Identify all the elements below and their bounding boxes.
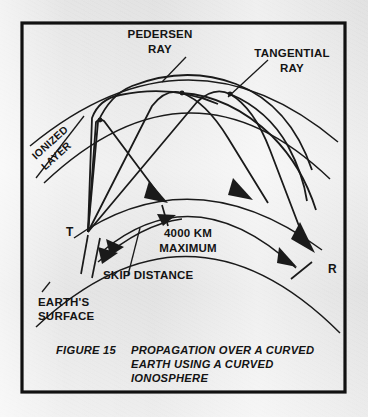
earths-surface-label-line1: EARTH'S	[38, 296, 90, 308]
caption-number: FIGURE 15	[56, 344, 117, 356]
ray-steep-arrowhead	[144, 181, 168, 203]
figure-page: PEDERSEN RAY TANGENTIAL RAY IONIZED LAYE…	[0, 0, 368, 417]
max-range-label-line1: 4000 KM	[164, 227, 212, 239]
pedersen-ray-label-line2: RAY	[148, 43, 172, 55]
skip-distance-label: SKIP DISTANCE	[103, 269, 193, 281]
steep-turning-point-dot	[98, 118, 103, 123]
skip-distance-origin-tick	[81, 235, 88, 274]
tangential-ray-leader	[228, 60, 268, 97]
max-range-label-line2: MAXIMUM	[159, 242, 217, 254]
tangential-ray-label-line1: TANGENTIAL	[254, 47, 329, 59]
ray-steep-first-hop	[88, 120, 160, 232]
skip-distance-leader	[128, 228, 140, 275]
figure-border	[22, 23, 345, 392]
earths-surface-label-line2: SURFACE	[38, 310, 94, 322]
pedersen-turning-point-dot	[180, 91, 185, 96]
earths-surface-leader	[42, 282, 50, 292]
caption-line1: PROPAGATION OVER A CURVED	[131, 344, 314, 356]
transmitter-label: T	[66, 225, 74, 239]
tangential-ray-arrowhead-at-R	[291, 222, 315, 253]
max-range-arrow-right	[277, 247, 297, 267]
max-range-origin-tick	[92, 238, 100, 278]
pedersen-ray-arrowhead	[228, 178, 253, 200]
pedersen-ray-label-line1: PEDERSEN	[128, 28, 193, 40]
receiver-label: R	[328, 262, 337, 276]
caption-line3: IONOSPHERE	[131, 372, 208, 384]
caption-line2: EARTH USING A CURVED	[131, 358, 274, 370]
pedersen-ray-leader	[162, 57, 186, 82]
propagation-diagram: PEDERSEN RAY TANGENTIAL RAY IONIZED LAYE…	[0, 0, 368, 417]
tangential-ray-label-line2: RAY	[280, 62, 304, 74]
